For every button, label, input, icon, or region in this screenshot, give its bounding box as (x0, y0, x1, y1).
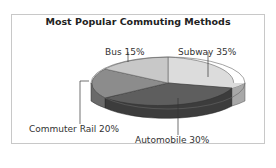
label-subway: Subway 35% (178, 47, 237, 57)
label-bus: Bus 15% (105, 47, 145, 57)
label-automobile: Automobile 30% (135, 135, 210, 145)
label-commuter-rail: Commuter Rail 20% (29, 124, 120, 134)
pie-chart: Bus 15% Subway 35% Commuter Rail 20% Aut… (0, 0, 276, 168)
